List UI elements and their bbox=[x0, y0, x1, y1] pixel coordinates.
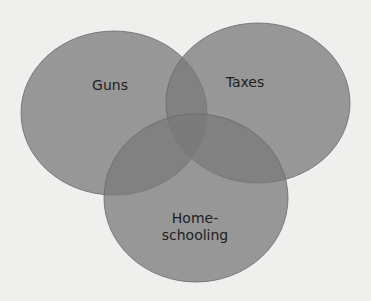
set-label-homeschooling-line2: schooling bbox=[155, 227, 235, 244]
set-circle-homeschooling bbox=[104, 114, 288, 282]
set-label-guns: Guns bbox=[85, 77, 135, 94]
venn-diagram bbox=[0, 0, 371, 301]
set-label-homeschooling: Home- schooling bbox=[155, 210, 235, 244]
set-label-taxes: Taxes bbox=[215, 74, 275, 91]
set-label-homeschooling-line1: Home- bbox=[155, 210, 235, 227]
